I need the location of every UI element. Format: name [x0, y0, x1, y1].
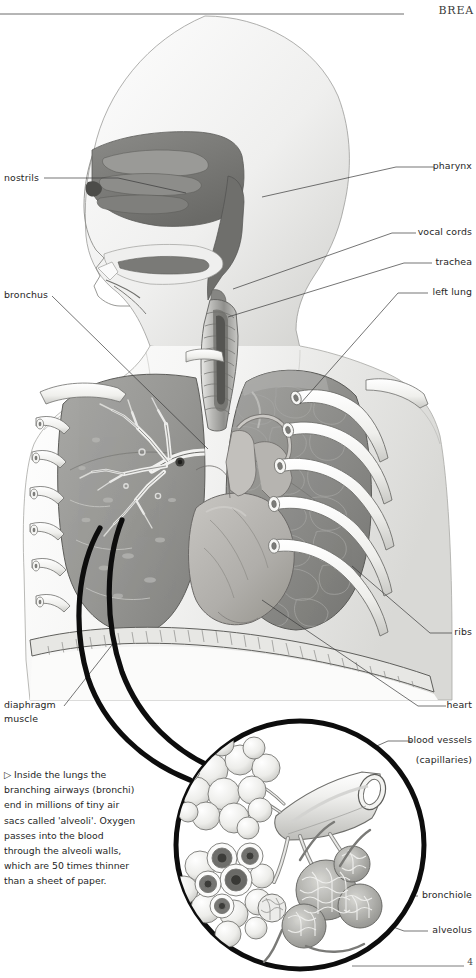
label-nostrils: nostrils [4, 172, 39, 184]
figure-page: BREA 4 nostrils bronchus diaphragm muscl… [0, 0, 476, 978]
label-blood-vessels: blood vessels [407, 734, 472, 746]
label-ribs: ribs [454, 626, 472, 638]
label-trachea: trachea [435, 256, 472, 268]
running-header: BREA [438, 4, 474, 17]
label-alveolus: alveolus [432, 924, 472, 936]
figure-caption: ▷ Inside the lungs the branching airways… [4, 767, 136, 889]
label-diaphragm-muscle: muscle [4, 713, 38, 725]
label-pharynx: pharynx [433, 160, 472, 172]
label-capillaries: (capillaries) [416, 754, 472, 766]
label-heart: heart [447, 699, 473, 711]
label-diaphragm: diaphragm [4, 699, 56, 711]
label-bronchiole: bronchiole [422, 889, 472, 901]
page-number: 4 [467, 957, 473, 967]
label-bronchus: bronchus [4, 289, 48, 301]
label-vocal-cords: vocal cords [418, 226, 472, 238]
label-left-lung: left lung [432, 286, 472, 298]
